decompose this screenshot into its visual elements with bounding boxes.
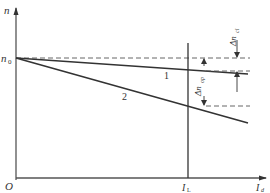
svg-text:L: L (187, 187, 191, 193)
il-label: I L (181, 182, 191, 193)
x-axis-label: I d (255, 182, 265, 193)
svg-text:cl: cl (234, 28, 240, 33)
speed-current-diagram: n n 0 O 1 2 I L I d Δn cl Δn op (0, 0, 270, 193)
origin-label: O (5, 180, 13, 192)
svg-text:op: op (199, 77, 205, 83)
svg-text:Δn: Δn (193, 86, 203, 97)
svg-text:0: 0 (8, 58, 12, 66)
svg-text:I: I (255, 182, 260, 193)
svg-text:n: n (1, 52, 7, 64)
curve-1 (16, 58, 248, 74)
curve-2-label: 2 (122, 91, 127, 102)
curve-1-label: 1 (164, 70, 169, 81)
svg-text:d: d (261, 187, 265, 193)
svg-text:I: I (181, 182, 186, 193)
delta-n-cl-label: Δn cl (228, 28, 240, 47)
svg-text:Δn: Δn (228, 36, 238, 47)
delta-n-op-label: Δn op (193, 77, 205, 97)
curve-2 (16, 58, 248, 123)
y-axis-label: n (4, 4, 10, 16)
n0-label: n 0 (1, 52, 12, 66)
